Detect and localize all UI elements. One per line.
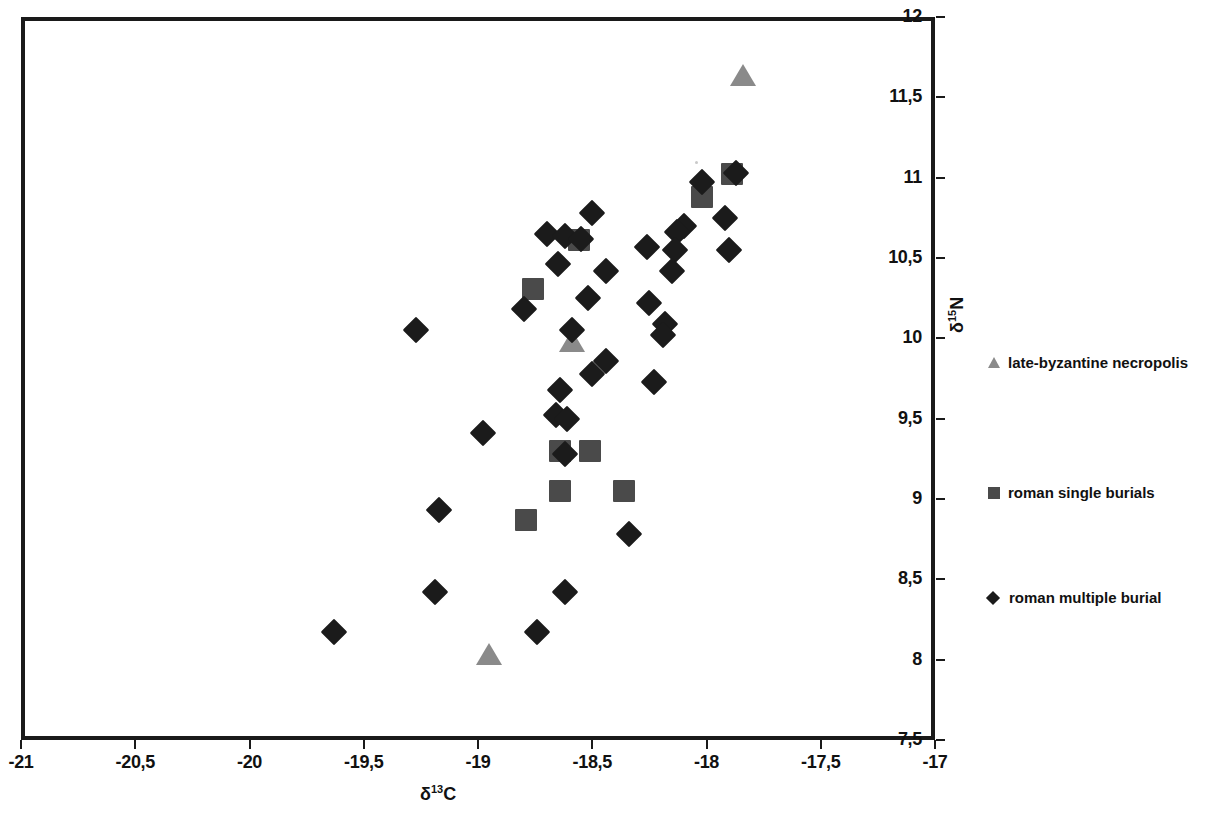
x-axis-title: δ13C [420,783,456,805]
y-axis-title: δ15N [946,297,968,333]
y-tick-mark [936,498,945,500]
data-point-square [613,480,635,502]
legend-item-2[interactable]: roman multiple burial [988,590,1162,605]
legend-item-1[interactable]: roman single burials [988,485,1155,500]
data-point-triangle [730,64,756,86]
data-point-square [579,440,601,462]
y-tick-label: 8 [860,649,922,670]
y-tick-label: 12 [860,6,922,27]
y-tick-label: 7,5 [860,729,922,750]
x-tick-mark [134,740,136,749]
y-tick-mark [936,337,945,339]
y-tick-mark [936,177,945,179]
y-tick-mark [936,96,945,98]
data-point-triangle [476,643,502,665]
stray-speck [695,161,698,164]
y-tick-label: 9 [860,488,922,509]
y-tick-mark [936,418,945,420]
y-axis-title-tail: N [947,297,967,310]
x-axis-title-base: δ [420,784,431,804]
x-tick-mark [477,740,479,749]
x-tick-label: -20,5 [100,752,170,773]
x-tick-label: -20 [215,752,285,773]
x-tick-mark [820,740,822,749]
legend-label: roman multiple burial [1009,590,1162,605]
legend-triangle-icon [988,357,1000,368]
y-tick-label: 11,5 [860,86,922,107]
y-tick-label: 11 [860,167,922,188]
y-axis-title-superscript: 15 [946,310,958,322]
y-tick-label: 9,5 [860,408,922,429]
x-tick-mark [20,740,22,749]
x-tick-label: -19 [443,752,513,773]
y-tick-mark [936,659,945,661]
plot-area [21,17,935,740]
x-axis-title-superscript: 13 [431,783,443,795]
legend-square-icon [988,487,1000,499]
y-axis-title-base: δ [947,322,967,333]
x-axis-title-tail: C [443,784,456,804]
y-tick-label: 10 [860,327,922,348]
legend-label: roman single burials [1008,485,1155,500]
x-tick-mark [363,740,365,749]
x-tick-label: -21 [0,752,56,773]
x-tick-label: -18 [672,752,742,773]
legend-label: late-byzantine necropolis [1008,355,1188,370]
x-tick-label: -17,5 [786,752,856,773]
x-tick-mark [249,740,251,749]
y-tick-mark [936,739,945,741]
data-point-square [549,480,571,502]
legend-item-0[interactable]: late-byzantine necropolis [988,355,1188,370]
x-tick-mark [934,740,936,749]
x-tick-mark [706,740,708,749]
y-tick-mark [936,257,945,259]
y-tick-mark [936,578,945,580]
x-tick-label: -18,5 [557,752,627,773]
y-tick-mark [936,16,945,18]
x-tick-label: -17 [900,752,970,773]
chart-canvas: -21-20,5-20-19,5-19-18,5-18-17,5-17 7,58… [0,0,1228,821]
x-tick-label: -19,5 [329,752,399,773]
x-tick-mark [591,740,593,749]
y-tick-label: 10,5 [860,247,922,268]
data-point-square [515,509,537,531]
y-tick-label: 8,5 [860,568,922,589]
legend-diamond-icon [986,590,1000,604]
